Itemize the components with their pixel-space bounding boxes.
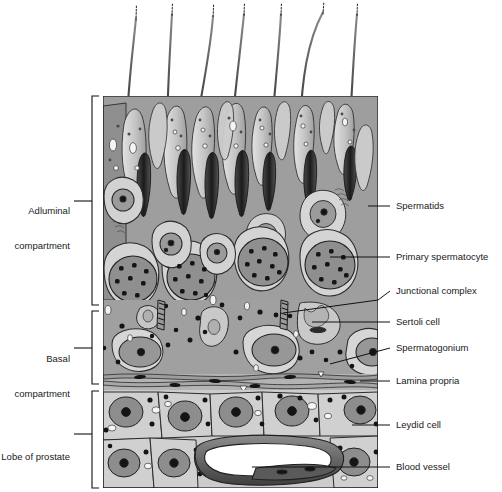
label-primary-spermatocyte: Primary spermatocyte — [396, 251, 488, 263]
label-junctional-complex: Junctional complex — [396, 285, 477, 297]
label-lamina-propria: Lamina propria — [396, 375, 459, 387]
label-sertoli-cell: Sertoli cell — [396, 316, 440, 328]
seminiferous-epithelium-panel — [102, 96, 388, 488]
bracket-basal — [92, 311, 99, 384]
label-adluminal-compartment: Adluminal compartment — [0, 182, 70, 263]
histology-figure: Adluminal compartment Basal compartment … — [0, 0, 502, 492]
bracket-adluminal — [92, 96, 99, 305]
label-basal-compartment: Basal compartment — [0, 330, 70, 411]
label-spermatogonium: Spermatogonium — [396, 342, 468, 354]
lamina-propria-band — [103, 372, 378, 392]
bracket-prostate — [92, 391, 99, 488]
label-spermatids: Spermatids — [396, 200, 444, 212]
label-leydig-cell: Leydid cell — [396, 419, 441, 431]
left-brackets — [74, 96, 99, 488]
label-lobe-of-prostate: Lobe of prostate — [0, 428, 70, 474]
blood-vessel — [195, 435, 344, 485]
label-blood-vessel: Blood vessel — [396, 461, 450, 473]
